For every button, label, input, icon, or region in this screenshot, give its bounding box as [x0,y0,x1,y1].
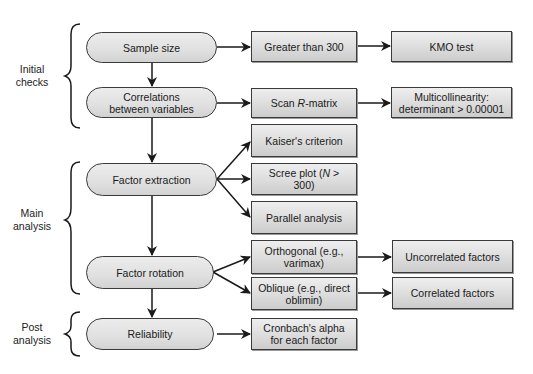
box-cronbachs-alpha: Cronbach's alpha for each factor [251,318,357,350]
box-text: Greater than 300 [264,41,343,53]
box-correlated-factors: Correlated factors [392,277,513,309]
step-text: Factor extraction [112,174,190,186]
step-text: Sample size [123,42,180,54]
box-text: varimax) [284,257,324,269]
text-part: -matrix [305,97,337,109]
stage-label-initial-checks: Initial checks [0,63,64,89]
box-greater-than-300: Greater than 300 [251,31,357,62]
brace-main [65,162,80,294]
box-text: 300) [293,179,314,191]
box-text: determinant > 0.00001 [399,103,504,115]
box-text: oblimin) [286,294,323,306]
box-text: Uncorrelated factors [405,251,500,263]
step-text: between variables [109,103,194,115]
stage-label-post-analysis: Post analysis [0,321,64,347]
step-text: Factor rotation [116,267,184,279]
stage-label-main-analysis: Main analysis [0,207,64,233]
box-text: Parallel analysis [266,212,342,224]
brace-post [65,312,80,356]
box-scan-r-matrix: Scan R-matrix [251,88,357,118]
stage-label-line: analysis [0,334,64,347]
box-text: Orthogonal (e.g., [265,245,344,257]
box-kaisers-criterion: Kaiser's criterion [251,124,357,157]
box-text: KMO test [430,41,474,53]
box-text: Multicollinearity: [414,91,489,103]
stage-label-line: Main [0,207,64,220]
box-uncorrelated-factors: Uncorrelated factors [392,240,513,273]
step-reliability: Reliability [86,318,214,350]
text-part: > [330,167,339,179]
box-text: for each factor [270,334,337,346]
box-text: Scan R-matrix [271,97,338,109]
box-scree-plot: Scree plot (N > 300) [251,163,357,195]
box-oblique: Oblique (e.g., direct oblimin) [251,277,357,310]
box-kmo-test: KMO test [391,31,512,62]
step-sample-size: Sample size [86,32,217,63]
box-text: Cronbach's alpha [263,322,344,334]
box-text: Oblique (e.g., direct [258,282,350,294]
brace-initial [65,24,80,128]
text-italic: N [323,167,331,179]
stage-label-line: analysis [0,220,64,233]
stage-label-line: Initial [0,63,64,76]
box-orthogonal: Orthogonal (e.g., varimax) [251,240,357,274]
stage-label-line: Post [0,321,64,334]
text-part: Scree plot ( [269,167,323,179]
box-text: Scree plot (N > [269,167,339,179]
step-factor-rotation: Factor rotation [86,256,214,289]
box-text: Correlated factors [411,287,494,299]
box-text: Kaiser's criterion [265,135,342,147]
text-part: Scan [271,97,298,109]
factor-analysis-flowchart: Initial checks Main analysis Post analys… [0,0,533,374]
box-multicollinearity: Multicollinearity: determinant > 0.00001 [391,87,512,118]
step-text: Reliability [128,328,173,340]
box-parallel-analysis: Parallel analysis [251,201,357,234]
step-factor-extraction: Factor extraction [86,163,217,196]
stage-label-line: checks [0,76,64,89]
step-correlations: Correlations between variables [86,87,217,118]
step-text: Correlations [123,91,180,103]
